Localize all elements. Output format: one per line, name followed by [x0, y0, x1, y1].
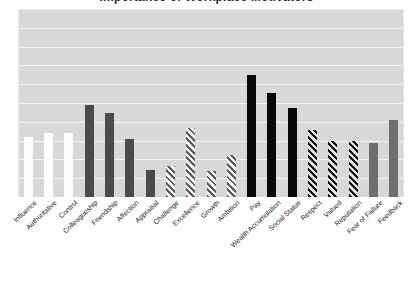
bar[interactable]: [247, 75, 256, 197]
bar[interactable]: [166, 166, 175, 197]
bar-series: [18, 9, 404, 197]
bar[interactable]: [308, 130, 317, 197]
bar[interactable]: [64, 133, 73, 197]
bar[interactable]: [227, 155, 236, 197]
bar[interactable]: [85, 105, 94, 197]
plot-area: [18, 9, 404, 197]
bar[interactable]: [44, 133, 53, 197]
bar[interactable]: [389, 120, 398, 197]
bar[interactable]: [207, 171, 216, 197]
x-axis-tick-label: Respect: [299, 199, 323, 222]
bar[interactable]: [369, 143, 378, 197]
bar-chart: Importance of Workplace Motivators Influ…: [0, 0, 413, 287]
bar[interactable]: [24, 137, 33, 197]
bar[interactable]: [186, 128, 195, 197]
bar[interactable]: [125, 139, 134, 197]
bar[interactable]: [146, 170, 155, 197]
x-axis-tick-label: Pay: [248, 199, 262, 213]
bar[interactable]: [267, 93, 276, 197]
x-axis-tick-label-text: Respect: [299, 199, 323, 222]
bar[interactable]: [328, 141, 337, 197]
bar[interactable]: [105, 113, 114, 197]
bar[interactable]: [288, 108, 297, 197]
bar[interactable]: [349, 141, 358, 197]
x-axis-tick-label-text: Pay: [248, 199, 262, 213]
x-axis-tick-labels: InfluenceAuthoritativeControlColleaguesh…: [18, 197, 404, 287]
chart-title: Importance of Workplace Motivators: [0, 0, 413, 4]
